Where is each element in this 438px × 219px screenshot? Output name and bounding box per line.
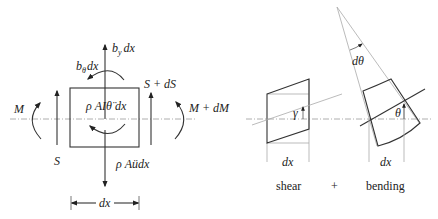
moment-left-arrow <box>32 103 41 139</box>
bending-angle-label: θ <box>395 106 401 120</box>
shear-caption: shear <box>276 179 301 193</box>
bending-deformation: dθ θ dx bending <box>337 7 425 193</box>
bending-width-label: dx <box>380 155 392 169</box>
body-moment-label: bθdx <box>76 59 99 75</box>
shear-right-label: S + dS <box>144 77 176 91</box>
shear-angle-label: γ <box>293 106 298 120</box>
shear-width-label: dx <box>282 155 294 169</box>
d-theta-label: dθ <box>352 54 364 68</box>
beam-element-diagram: bydx bθdx ρ AIθ̈ dx ρ Aüdx S S + dS M M … <box>0 0 438 219</box>
translational-inertia-label: ρ Aüdx <box>115 157 150 171</box>
wedge-ray-right <box>337 7 420 124</box>
deformation-diagram: γ dx shear + dθ θ dx bending <box>246 7 432 193</box>
bending-caption: bending <box>366 179 405 193</box>
free-body-diagram: bydx bθdx ρ AIθ̈ dx ρ Aüdx S S + dS M M … <box>10 41 230 210</box>
moment-left-label: M <box>13 102 25 116</box>
width-label: dx <box>99 196 111 210</box>
rotary-inertia-label: ρ AIθ̈ dx <box>85 99 127 113</box>
moment-right-arrow <box>175 102 184 139</box>
shear-left-label: S <box>54 154 60 168</box>
body-force-y-label: bydx <box>112 41 136 57</box>
plus-sign: + <box>331 179 338 193</box>
shear-deformation: γ dx shear <box>252 79 342 193</box>
moment-right-label: M + dM <box>188 101 230 115</box>
bending-normal-line <box>360 89 425 126</box>
d-theta-arc <box>350 44 362 50</box>
wedge-ray-left <box>337 7 377 146</box>
rotary-inertia-arrow <box>90 124 125 134</box>
